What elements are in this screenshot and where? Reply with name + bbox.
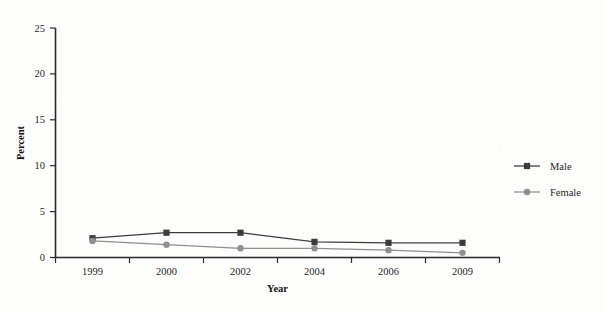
data-point-female-2004 xyxy=(311,245,317,251)
y-tick-label: 15 xyxy=(35,114,46,125)
x-tick-label: 2009 xyxy=(452,266,473,277)
data-point-female-2009 xyxy=(459,250,465,256)
x-tick-label: 2006 xyxy=(378,266,399,277)
y-tick-label: 25 xyxy=(35,23,46,34)
y-axis-title: Percent xyxy=(15,125,26,160)
data-point-female-2002 xyxy=(237,245,243,251)
legend-marker-male xyxy=(524,163,530,169)
data-series-layer xyxy=(89,230,465,257)
data-point-female-1999 xyxy=(89,238,95,244)
legend-label-female: Female xyxy=(550,187,581,198)
x-tick-label: 2004 xyxy=(304,266,326,277)
series-female xyxy=(89,238,465,256)
data-point-male-2000 xyxy=(163,230,169,236)
legend-label-male: Male xyxy=(550,161,572,172)
data-point-female-2006 xyxy=(385,247,391,253)
x-tick-label: 1999 xyxy=(82,266,103,277)
y-tick-label: 0 xyxy=(40,252,45,263)
chart-figure: 0 5 10 15 20 25 1999 2000 2002 2004 2006… xyxy=(0,0,602,311)
line-chart-plot: 0 5 10 15 20 25 1999 2000 2002 2004 2006… xyxy=(0,0,602,311)
x-axis-tick-labels: 1999 2000 2002 2004 2006 2009 xyxy=(82,266,473,277)
data-point-male-2009 xyxy=(459,240,465,246)
data-point-male-2004 xyxy=(311,239,317,245)
series-line-male xyxy=(93,233,463,243)
legend-item-female: Female xyxy=(514,187,581,198)
data-point-male-2006 xyxy=(385,240,391,246)
x-tick-label: 2000 xyxy=(156,266,177,277)
x-axis-title: Year xyxy=(267,283,288,294)
y-tick-label: 10 xyxy=(35,160,46,171)
data-point-female-2000 xyxy=(163,241,169,247)
x-axis-ticks xyxy=(56,258,500,264)
y-tick-label: 5 xyxy=(40,206,45,217)
y-tick-label: 20 xyxy=(35,68,46,79)
y-axis-ticks xyxy=(50,28,56,258)
legend-item-male: Male xyxy=(514,161,572,172)
x-tick-label: 2002 xyxy=(230,266,251,277)
legend-marker-female xyxy=(524,189,530,195)
y-axis-tick-labels: 0 5 10 15 20 25 xyxy=(35,23,46,264)
data-point-male-2002 xyxy=(237,230,243,236)
chart-legend: MaleFemale xyxy=(514,161,581,198)
